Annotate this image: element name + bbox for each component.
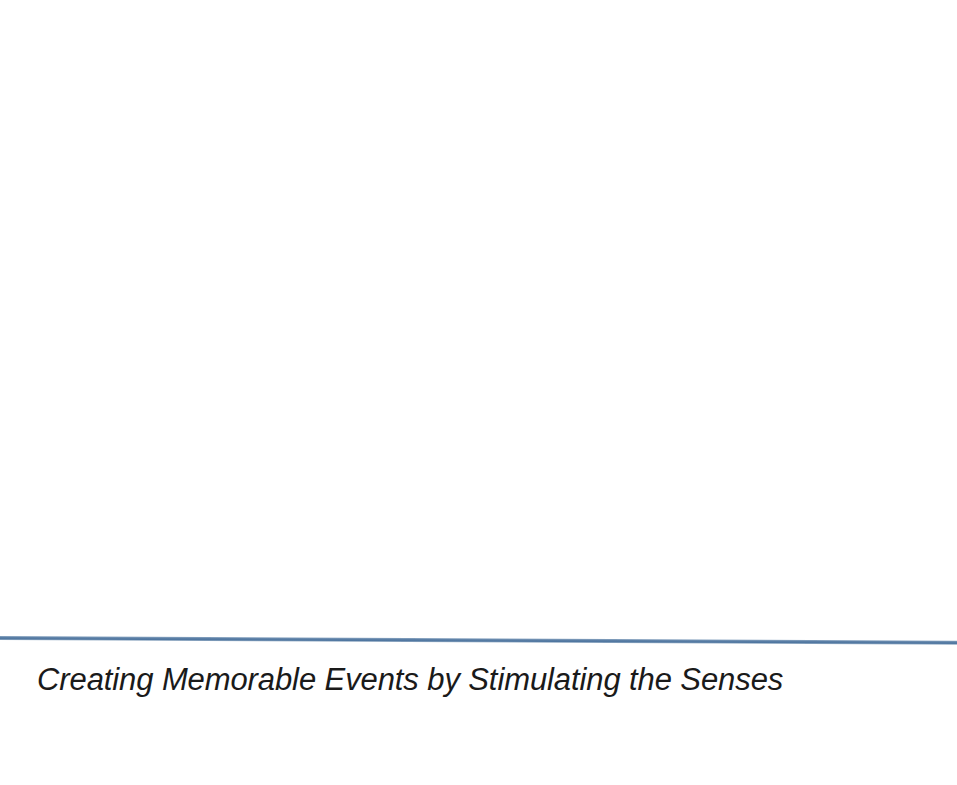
divider-container bbox=[0, 628, 957, 650]
slide-content-area[interactable] bbox=[0, 0, 957, 630]
slide-footer-title: Creating Memorable Events by Stimulating… bbox=[37, 661, 917, 699]
slide-canvas: Creating Memorable Events by Stimulating… bbox=[0, 0, 957, 785]
horizontal-rule-divider bbox=[0, 636, 957, 645]
